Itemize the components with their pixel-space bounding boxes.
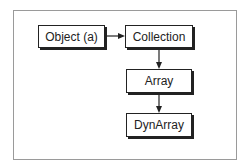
arrow-object-to-collection xyxy=(106,33,125,39)
arrow-collection-to-array xyxy=(156,50,162,69)
node-dynarray: DynArray xyxy=(126,113,192,137)
arrow-array-to-dynarray xyxy=(156,95,162,113)
node-collection: Collection xyxy=(125,25,193,48)
node-object: Object (a) xyxy=(38,25,105,48)
node-array: Array xyxy=(126,69,192,93)
